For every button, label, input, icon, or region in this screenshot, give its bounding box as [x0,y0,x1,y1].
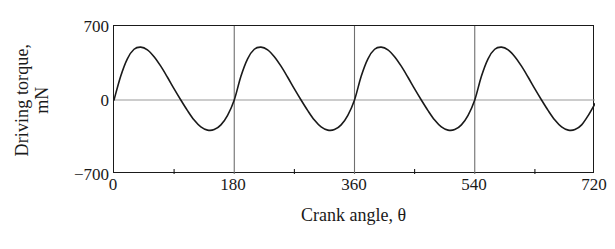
x-axis-tick-labels: 0 180 360 540 720 [0,176,615,202]
y-axis-tick-labels: 700 0 −700 [55,0,109,249]
plot-area [113,25,594,173]
x-tick-label-540: 540 [461,176,487,193]
x-tick-label-0: 0 [109,176,118,193]
driving-torque-chart-figure: Driving torque, mN 700 0 −700 [0,0,615,249]
x-tick-label-720: 720 [581,176,607,193]
x-axis-title: Crank angle, θ [113,206,594,224]
y-axis-title-text: Driving torque, mN [12,44,52,156]
y-axis-title-line-1: Driving torque, [12,44,32,156]
y-axis-title-line-2: mN [32,44,52,156]
x-tick-label-360: 360 [341,176,367,193]
y-tick-label-700: 700 [57,18,109,35]
plot-svg [114,26,595,174]
x-tick-label-180: 180 [220,176,246,193]
y-tick-label-0: 0 [57,92,109,109]
